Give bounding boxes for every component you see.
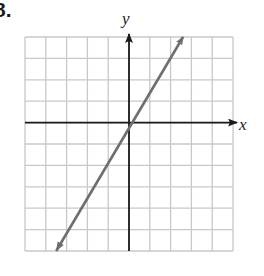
coordinate-plane: x y	[0, 0, 264, 276]
y-axis-label: y	[120, 9, 130, 28]
x-axis-label: x	[238, 115, 247, 134]
axes	[25, 34, 237, 251]
